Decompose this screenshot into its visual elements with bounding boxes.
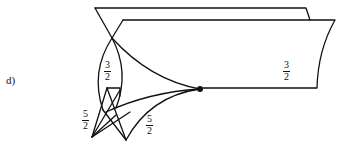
loop-right bbox=[112, 38, 122, 108]
denominator: 2 bbox=[147, 126, 152, 136]
cusp-curve-low bbox=[126, 89, 200, 140]
denominator: 2 bbox=[83, 121, 88, 131]
numerator: 3 bbox=[284, 60, 289, 70]
numerator: 3 bbox=[105, 60, 110, 70]
swallowtail-5 bbox=[92, 112, 130, 137]
front-sheet-edge bbox=[123, 20, 335, 88]
numerator: 5 bbox=[147, 114, 152, 124]
fold-line-2 bbox=[112, 20, 123, 38]
denominator: 2 bbox=[105, 72, 110, 82]
swallowtail-6 bbox=[103, 110, 126, 140]
singular-point bbox=[197, 86, 203, 92]
fraction-left-cusp: 5 2 bbox=[82, 109, 89, 131]
fraction-sheet: 3 2 bbox=[283, 60, 290, 82]
back-sheet-edge bbox=[95, 8, 310, 20]
fraction-loop: 3 2 bbox=[104, 60, 111, 82]
fraction-right-cusp: 5 2 bbox=[146, 114, 153, 136]
fold-line bbox=[95, 8, 112, 38]
denominator: 2 bbox=[284, 72, 289, 82]
figure-label: d) bbox=[6, 75, 15, 86]
cusp-curve-top bbox=[112, 38, 200, 89]
numerator: 5 bbox=[83, 109, 88, 119]
